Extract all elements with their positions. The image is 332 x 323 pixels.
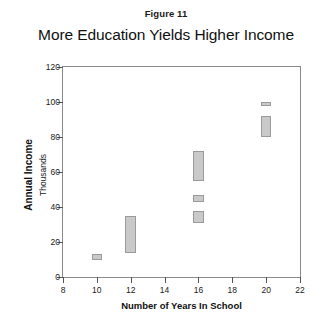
x-axis-tick xyxy=(97,277,98,283)
x-axis-tick xyxy=(266,277,267,283)
x-axis-tick xyxy=(131,277,132,283)
y-axis-tick-label: 20 xyxy=(51,237,60,247)
x-axis-tick xyxy=(198,277,199,283)
data-range-bar xyxy=(193,211,203,223)
y-axis-tick-label: 120 xyxy=(46,62,60,72)
x-axis-tick xyxy=(165,277,166,283)
y-axis-units-label: Thousands xyxy=(37,120,50,230)
data-range-bar xyxy=(261,102,271,106)
y-axis-tick-label: 100 xyxy=(46,97,60,107)
y-axis-tick-label: 80 xyxy=(51,132,60,142)
x-axis-tick-label: 22 xyxy=(295,285,304,295)
data-range-bar xyxy=(193,195,203,202)
x-axis-tick-label: 12 xyxy=(126,285,135,295)
plot-area: 020406080100120810121416182022 xyxy=(62,66,301,278)
x-axis-tick-label: 14 xyxy=(160,285,169,295)
y-axis-title: Annual Income xyxy=(22,120,36,230)
x-axis-tick-label: 20 xyxy=(261,285,270,295)
x-axis-tick-label: 16 xyxy=(194,285,203,295)
plot-inner: 020406080100120810121416182022 xyxy=(63,67,300,277)
figure-caption: Figure 11 xyxy=(0,8,332,19)
x-axis-tick xyxy=(232,277,233,283)
y-axis-tick-label: 0 xyxy=(55,272,60,282)
data-range-bar xyxy=(125,216,135,253)
x-axis-tick xyxy=(63,277,64,283)
y-axis-tick-label: 60 xyxy=(51,167,60,177)
x-axis-tick-label: 8 xyxy=(61,285,66,295)
data-range-bar xyxy=(92,254,102,259)
y-axis-tick-label: 40 xyxy=(51,202,60,212)
x-axis-tick-label: 10 xyxy=(92,285,101,295)
figure-container: Figure 11 More Education Yields Higher I… xyxy=(0,0,332,323)
y-axis-title-group: Annual Income Thousands xyxy=(8,120,42,230)
data-range-bar xyxy=(261,116,271,137)
x-axis-tick xyxy=(300,277,301,283)
x-axis-tick-label: 18 xyxy=(228,285,237,295)
data-range-bar xyxy=(193,151,203,181)
chart-title: More Education Yields Higher Income xyxy=(0,26,332,44)
x-axis-title: Number of Years In School xyxy=(62,300,301,311)
